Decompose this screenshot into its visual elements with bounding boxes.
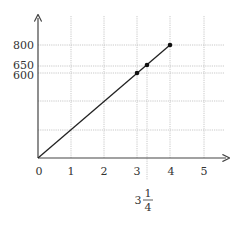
data-point-3.25-650 <box>145 63 150 68</box>
y-tick-800: 800 <box>13 39 34 52</box>
data-point-3-600 <box>135 71 140 76</box>
mixed-fraction-label: 3 1 4 <box>135 187 154 214</box>
x-tick-1: 1 <box>68 165 75 178</box>
x-tick-4: 4 <box>168 165 175 178</box>
x-tick-5: 5 <box>201 165 208 178</box>
x-tick-2: 2 <box>101 165 108 178</box>
y-tick-600: 600 <box>13 69 34 82</box>
data-point-4-800 <box>168 43 173 48</box>
data-line <box>38 45 170 158</box>
line-chart: 800 650 600 0 1 2 3 4 5 3 1 4 <box>0 0 242 227</box>
horizontal-gridlines <box>38 45 224 130</box>
svg-text:1: 1 <box>145 187 152 200</box>
svg-text:4: 4 <box>145 201 152 214</box>
x-tick-0: 0 <box>36 165 43 178</box>
vertical-gridlines <box>71 16 204 180</box>
svg-text:3: 3 <box>135 194 142 207</box>
x-tick-3: 3 <box>134 165 141 178</box>
